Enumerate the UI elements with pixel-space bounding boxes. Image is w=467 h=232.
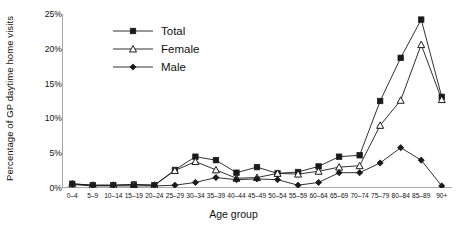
legend-item-female[interactable]: Female bbox=[112, 40, 242, 58]
legend-marker-filled-square-icon bbox=[112, 24, 154, 38]
y-axis-tick-label: 15% bbox=[20, 79, 62, 89]
marker-filled-square bbox=[254, 164, 259, 169]
marker-filled-diamond bbox=[213, 174, 219, 180]
x-axis-tick-label: 45–49 bbox=[248, 192, 266, 199]
gp-home-visits-line-chart: Percentage of GP daytime home visits 0%5… bbox=[0, 0, 467, 232]
legend-item-male[interactable]: Male bbox=[112, 58, 242, 76]
x-axis-tick-label: 50–54 bbox=[268, 192, 286, 199]
legend-label: Male bbox=[161, 61, 186, 73]
y-axis-title-text: Percentage of GP daytime home visits bbox=[4, 15, 15, 180]
x-axis-title-text: Age group bbox=[209, 208, 257, 220]
marker-filled-diamond bbox=[357, 170, 363, 176]
x-axis-tick-label: 60–64 bbox=[309, 192, 327, 199]
marker-filled-diamond bbox=[192, 179, 198, 185]
marker-filled-diamond bbox=[315, 179, 321, 185]
legend-item-total[interactable]: Total bbox=[112, 22, 242, 40]
marker-filled-diamond bbox=[274, 177, 280, 183]
y-axis-tick-label: 25% bbox=[20, 9, 62, 19]
legend-label: Female bbox=[161, 43, 199, 55]
marker-open-triangle bbox=[397, 97, 404, 103]
legend-marker-filled-diamond-icon bbox=[112, 60, 154, 74]
x-axis-tick-label: 10–14 bbox=[104, 192, 122, 199]
y-axis-tick-label: 10% bbox=[20, 113, 62, 123]
marker-filled-square bbox=[419, 17, 424, 22]
x-axis-tick-label: 5–9 bbox=[87, 192, 98, 199]
legend: TotalFemaleMale bbox=[112, 22, 242, 76]
marker-open-triangle bbox=[212, 166, 219, 172]
marker-filled-diamond bbox=[130, 64, 136, 70]
marker-filled-square bbox=[377, 98, 382, 103]
marker-filled-square bbox=[336, 154, 341, 159]
marker-open-triangle bbox=[418, 41, 425, 47]
y-axis-tick-label: 20% bbox=[20, 44, 62, 54]
x-axis-title: Age group bbox=[0, 208, 467, 220]
marker-filled-square bbox=[398, 55, 403, 60]
x-axis-tick-label: 30–34 bbox=[186, 192, 204, 199]
x-axis-tick-label: 75–79 bbox=[371, 192, 389, 199]
x-axis-tick-label: 70–74 bbox=[350, 192, 368, 199]
x-axis-tick-label: 90+ bbox=[436, 192, 447, 199]
x-axis-tick-labels: 0–45–910–1415–1920–2425–2930–3435–3940–4… bbox=[62, 192, 452, 206]
x-axis-tick-label: 15–19 bbox=[125, 192, 143, 199]
x-axis-tick-label: 25–29 bbox=[166, 192, 184, 199]
x-axis-tick-label: 80–84 bbox=[392, 192, 410, 199]
y-axis-title: Percentage of GP daytime home visits bbox=[0, 0, 18, 196]
y-axis-tick-labels: 0%5%10%15%20%25% bbox=[18, 0, 62, 232]
x-axis-tick-label: 85–89 bbox=[412, 192, 430, 199]
x-axis-tick-label: 55–59 bbox=[289, 192, 307, 199]
legend-marker-open-triangle-icon bbox=[112, 42, 154, 56]
marker-filled-square bbox=[357, 153, 362, 158]
x-axis-tick-label: 20–24 bbox=[145, 192, 163, 199]
marker-filled-square bbox=[213, 157, 218, 162]
x-axis-tick-label: 0–4 bbox=[67, 192, 78, 199]
marker-filled-square bbox=[130, 28, 135, 33]
y-axis-tick-label: 0% bbox=[20, 183, 62, 193]
marker-filled-diamond bbox=[172, 182, 178, 188]
x-axis-tick-label: 40–44 bbox=[227, 192, 245, 199]
y-axis-tick-label: 5% bbox=[20, 148, 62, 158]
legend-label: Total bbox=[161, 25, 185, 37]
x-axis-tick-label: 35–39 bbox=[207, 192, 225, 199]
x-axis-tick-label: 65–69 bbox=[330, 192, 348, 199]
marker-filled-diamond bbox=[295, 182, 301, 188]
